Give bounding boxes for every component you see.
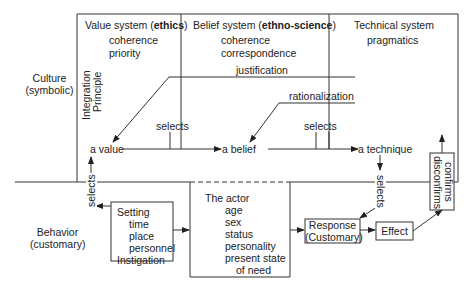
node-a-technique: a technique	[358, 143, 412, 155]
culture-label-line2: (symbolic)	[22, 84, 77, 96]
setting-item: place	[117, 230, 175, 242]
actor-box: The actor age sex status personality pre…	[205, 192, 286, 276]
actor-item: personality	[205, 240, 286, 252]
belief-system-item: coherence	[221, 34, 270, 46]
node-a-belief: a belief	[222, 143, 256, 155]
actor-item: of need	[205, 264, 286, 276]
actor-item: sex	[205, 216, 286, 228]
behavior-label-line2: (customary)	[30, 238, 85, 250]
selects-label-technique: selects	[375, 174, 386, 209]
selects-label-value: selects	[156, 120, 189, 132]
justification-label: justification	[236, 64, 288, 76]
belief-system-title: Belief system (ethno-science)	[193, 19, 336, 31]
confirm-box: confirms disconfirms	[432, 156, 454, 209]
setting-footer: Instigation	[117, 254, 175, 266]
rationalization-arrow	[250, 103, 355, 142]
actor-item: age	[205, 204, 286, 216]
selects-label-behavior: selects	[86, 173, 97, 208]
value-system-item: coherence	[109, 34, 158, 46]
setting-box: Setting time place personnel Instigation	[117, 206, 175, 266]
setting-item: time	[117, 218, 175, 230]
response-line2: (Customary)	[305, 231, 360, 243]
justification-arrow	[113, 77, 355, 142]
value-system-item: priority	[109, 47, 141, 59]
selects-label-belief: selects	[304, 120, 337, 132]
behavior-label: Behavior (customary)	[30, 226, 85, 250]
integration-principle-label: Integration Principle	[81, 70, 103, 120]
integration-label-line2: Principle	[92, 70, 103, 120]
belief-system-item: correspondence	[221, 47, 296, 59]
culture-label: Culture (symbolic)	[22, 72, 77, 96]
rationalization-label: rationalization	[289, 90, 354, 102]
setting-title: Setting	[117, 206, 175, 218]
technical-system-title: Technical system	[354, 19, 434, 31]
culture-label-line1: Culture	[22, 72, 77, 84]
value-system-title: Value system (ethics)	[85, 19, 188, 31]
node-a-value: a value	[90, 143, 124, 155]
response-line1: Response	[305, 219, 360, 231]
setting-item: personnel	[117, 242, 175, 254]
actor-item: present state	[205, 252, 286, 264]
effect-box: Effect	[376, 225, 413, 237]
behavior-label-line1: Behavior	[30, 226, 85, 238]
confirm-line1: confirms	[443, 156, 454, 209]
actor-title: The actor	[205, 192, 286, 204]
actor-item: status	[205, 228, 286, 240]
technical-system-item: pragmatics	[367, 34, 418, 46]
confirm-line2: disconfirms	[432, 156, 443, 209]
response-box: Response (Customary)	[305, 219, 360, 243]
